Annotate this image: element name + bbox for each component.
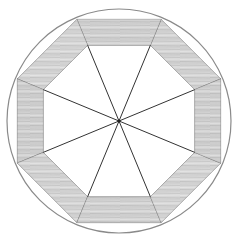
wood-grain-overlay	[150, 19, 220, 89]
wood-grain-overlay	[77, 19, 161, 45]
wood-grain-overlay	[150, 152, 220, 222]
wood-grain-overlay	[77, 197, 161, 223]
wood-grain-overlay	[17, 19, 87, 89]
wood-grain-overlay	[195, 79, 221, 163]
center-hub	[117, 119, 120, 122]
wood-grain-overlay	[17, 79, 43, 163]
wood-grain-overlay	[17, 152, 87, 222]
octagon-frame-diagram	[0, 0, 240, 247]
